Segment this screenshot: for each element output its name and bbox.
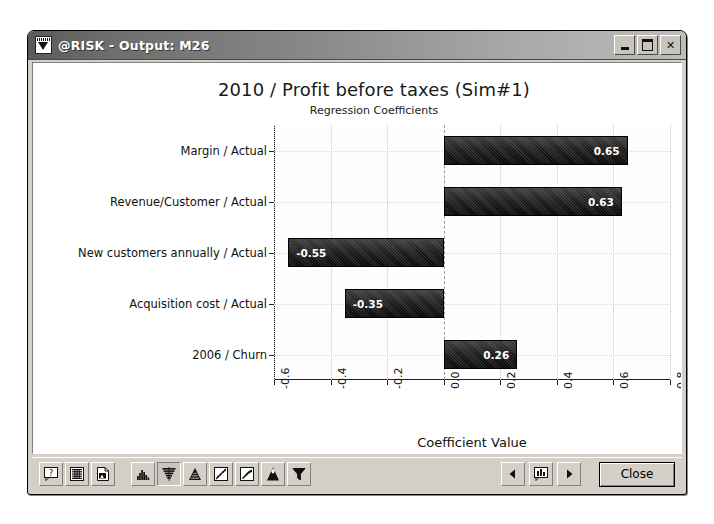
bar-value-label: 0.26 (483, 349, 509, 361)
help-icon: ? (43, 466, 59, 482)
bar: -0.55 (288, 238, 444, 267)
y-tick (269, 253, 274, 254)
x-tick-label: 0.0 (449, 372, 462, 390)
minimize-button[interactable] (614, 35, 635, 55)
filter-icon-button[interactable] (287, 462, 311, 486)
cumulative-icon-button[interactable] (183, 462, 207, 486)
x-tick-label: 0.4 (562, 372, 575, 390)
plot-area: 0.650.63-0.55-0.350.26 (274, 125, 670, 380)
bar: 0.26 (444, 340, 518, 369)
x-axis (274, 379, 670, 380)
prev-button[interactable] (501, 462, 525, 486)
next-button[interactable] (557, 462, 581, 486)
cumulative-icon (187, 466, 203, 482)
filter-icon (291, 466, 307, 482)
y-tick (269, 355, 274, 356)
scatter-icon (213, 466, 229, 482)
x-tick (444, 380, 445, 385)
histogram-icon (135, 466, 151, 482)
window-controls: ✕ (614, 35, 681, 55)
y-tick (269, 202, 274, 203)
report-icon (95, 466, 111, 482)
category-label-column: Margin / ActualRevenue/Customer / Actual… (33, 125, 274, 380)
x-tick-label: -0.2 (392, 368, 405, 389)
window-client: 2010 / Profit before taxes (Sim#1) Regre… (32, 62, 682, 490)
chart-title: 2010 / Profit before taxes (Sim#1) (33, 79, 681, 100)
chart-subtitle: Regression Coefficients (33, 104, 681, 117)
x-tick-label: 0.6 (618, 372, 631, 390)
chevron-left-icon (507, 468, 519, 480)
data-grid-icon (69, 466, 85, 482)
category-label: Acquisition cost / Actual (129, 297, 274, 311)
x-tick (331, 380, 332, 385)
close-button[interactable]: Close (599, 462, 675, 487)
y-tick (269, 151, 274, 152)
trend-icon-button[interactable] (235, 462, 259, 486)
y-gridline (274, 304, 670, 305)
atrisk-output-window: @RISK - Output: M26 ✕ 2010 / Profit befo… (27, 30, 687, 495)
chevron-right-icon (563, 468, 575, 480)
trend-icon (239, 466, 255, 482)
y-tick (269, 304, 274, 305)
screen: @RISK - Output: M26 ✕ 2010 / Profit befo… (0, 0, 714, 524)
close-icon: ✕ (661, 36, 680, 54)
x-tick-label: -0.6 (279, 368, 292, 389)
category-label: Margin / Actual (181, 144, 275, 158)
bar: 0.65 (444, 136, 628, 165)
x-tick (387, 380, 388, 385)
maximize-button[interactable] (637, 35, 658, 55)
bar-chart-icon-button[interactable] (529, 462, 553, 486)
tornado-icon-button[interactable] (157, 462, 181, 486)
chart-pane: 2010 / Profit before taxes (Sim#1) Regre… (32, 62, 682, 454)
tornado-icon (161, 466, 177, 482)
bar-value-label: 0.63 (588, 196, 614, 208)
category-label: New customers annually / Actual (78, 246, 274, 260)
scatter-icon-button[interactable] (209, 462, 233, 486)
toolbar: ? (32, 457, 682, 490)
bar-value-label: -0.35 (353, 298, 383, 310)
x-tick-label: 0.2 (505, 372, 518, 390)
x-tick-label: -0.4 (336, 368, 349, 389)
category-label: Revenue/Customer / Actual (110, 195, 274, 209)
close-window-button[interactable]: ✕ (660, 35, 681, 55)
category-label: 2006 / Churn (192, 348, 274, 362)
x-gridline (670, 125, 671, 380)
x-tick (670, 380, 671, 385)
window-title: @RISK - Output: M26 (58, 38, 210, 53)
x-tick (557, 380, 558, 385)
x-tick (500, 380, 501, 385)
bar: -0.35 (345, 289, 444, 318)
histogram-icon-button[interactable] (131, 462, 155, 486)
x-axis-title: Coefficient Value (274, 435, 670, 450)
x-tick-label: 0.8 (675, 372, 682, 390)
help-icon-button[interactable]: ? (39, 462, 63, 486)
title-bar[interactable]: @RISK - Output: M26 ✕ (28, 31, 686, 60)
data-grid-icon-button[interactable] (65, 462, 89, 486)
pyramid-icon (265, 466, 281, 482)
report-icon-button[interactable] (91, 462, 115, 486)
bar: 0.63 (444, 187, 622, 216)
bar-value-label: 0.65 (594, 145, 620, 157)
svg-text:?: ? (49, 468, 54, 478)
x-tick (613, 380, 614, 385)
bar-value-label: -0.55 (296, 247, 326, 259)
atrisk-tornado-icon (35, 36, 52, 54)
x-tick (274, 380, 275, 385)
pyramid-icon-button[interactable] (261, 462, 285, 486)
navigation-group (501, 462, 583, 486)
bar-chart-icon (533, 466, 549, 482)
